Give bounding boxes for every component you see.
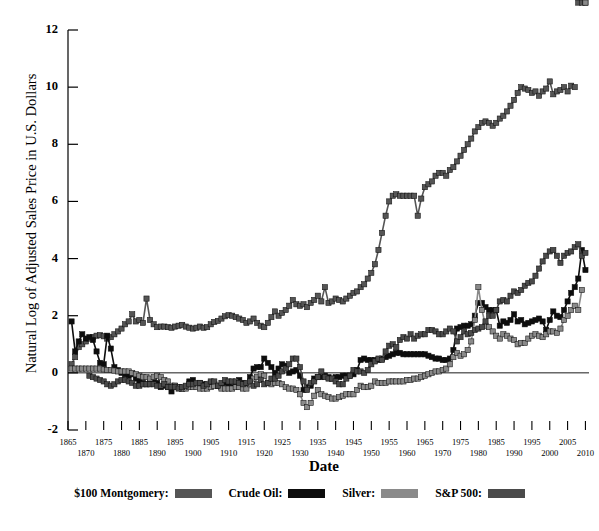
- y-tick-label: -2: [24, 422, 58, 437]
- x-tick-label: 1960: [387, 448, 427, 458]
- x-tick-label: 1910: [209, 448, 249, 458]
- x-tick-label: 1900: [173, 448, 213, 458]
- x-tick-label: 1865: [48, 437, 88, 447]
- x-tick-label: 1920: [244, 448, 284, 458]
- x-tick-label: 2005: [548, 437, 588, 447]
- chart-legend: $100 Montgomery:Crude Oil:Silver:S&P 500…: [0, 487, 599, 500]
- x-tick-label: 1970: [423, 448, 463, 458]
- x-tick-label: 1965: [405, 437, 445, 447]
- x-tick-label: 1905: [191, 437, 231, 447]
- y-tick-label: 8: [24, 136, 58, 151]
- x-tick-label: 1945: [333, 437, 373, 447]
- x-tick-label: 1980: [458, 448, 498, 458]
- legend-entry: Crude Oil:: [229, 487, 326, 500]
- y-tick-label: 4: [24, 251, 58, 266]
- legend-entry: $100 Montgomery:: [74, 487, 211, 500]
- legend-entry: Silver:: [342, 487, 418, 500]
- x-tick-label: 1935: [298, 437, 338, 447]
- x-tick-label: 1990: [494, 448, 534, 458]
- series-0: [69, 0, 588, 367]
- x-tick-label: 1890: [137, 448, 177, 458]
- series-2: [69, 0, 588, 410]
- x-tick-label: 1930: [280, 448, 320, 458]
- y-tick-label: 2: [24, 308, 58, 323]
- legend-color-swatch: [288, 489, 325, 498]
- legend-label: Crude Oil:: [229, 487, 283, 500]
- legend-label: S&P 500:: [435, 487, 482, 500]
- x-tick-label: 1885: [119, 437, 159, 447]
- x-tick-label: 2000: [530, 448, 570, 458]
- x-tick-label: 1870: [66, 448, 106, 458]
- legend-entry: S&P 500:: [435, 487, 525, 500]
- legend-color-swatch: [381, 489, 418, 498]
- x-tick-label: 2010: [565, 448, 599, 458]
- x-tick-label: 1875: [84, 437, 124, 447]
- legend-color-swatch: [175, 489, 212, 498]
- y-tick-label: 0: [24, 365, 58, 380]
- x-axis-title: Date: [64, 458, 584, 475]
- x-tick-label: 1925: [262, 437, 302, 447]
- x-tick-label: 1985: [476, 437, 516, 447]
- x-tick-label: 1995: [512, 437, 552, 447]
- y-tick-label: 12: [24, 22, 58, 37]
- chart-figure: Natural Log of Adjusted Sales Price in U…: [0, 0, 599, 531]
- legend-color-swatch: [488, 489, 525, 498]
- x-tick-label: 1950: [351, 448, 391, 458]
- x-tick-label: 1955: [369, 437, 409, 447]
- x-tick-label: 1940: [316, 448, 356, 458]
- series-1: [69, 247, 588, 394]
- x-tick-label: 1880: [102, 448, 142, 458]
- x-tick-label: 1915: [226, 437, 266, 447]
- x-tick-label: 1975: [441, 437, 481, 447]
- y-tick-label: 6: [24, 193, 58, 208]
- legend-label: $100 Montgomery:: [74, 487, 168, 500]
- x-tick-label: 1895: [155, 437, 195, 447]
- y-tick-label: 10: [24, 79, 58, 94]
- legend-label: Silver:: [342, 487, 375, 500]
